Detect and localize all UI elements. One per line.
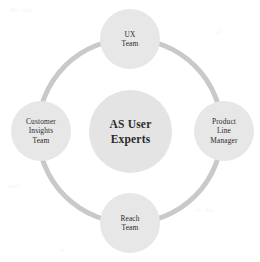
hub-node-as-user-experts[interactable]: AS User Experts bbox=[89, 90, 172, 173]
node-ux-team[interactable]: UX Team bbox=[100, 9, 160, 69]
node-customer-insights-team[interactable]: Customer Insights Team bbox=[11, 101, 71, 161]
diagram-canvas: the the in a of and to the is AS User Ex… bbox=[0, 0, 260, 262]
hub-node-label: AS User Experts bbox=[110, 117, 152, 146]
node-product-line-manager-label: Product Line Manager bbox=[210, 117, 237, 145]
node-ux-team-label: UX Team bbox=[122, 30, 139, 49]
node-reach-team[interactable]: Reach Team bbox=[100, 193, 160, 253]
node-customer-insights-team-label: Customer Insights Team bbox=[26, 117, 56, 145]
node-product-line-manager[interactable]: Product Line Manager bbox=[194, 101, 254, 161]
node-reach-team-label: Reach Team bbox=[120, 214, 139, 233]
